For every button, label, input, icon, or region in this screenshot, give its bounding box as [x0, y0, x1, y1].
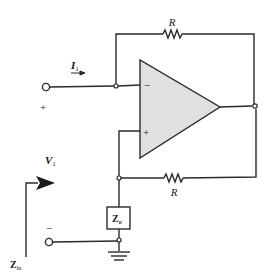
output-node — [253, 104, 257, 108]
zin-label: Zin — [10, 259, 21, 271]
resistor-bottom-label: R — [170, 186, 178, 198]
circuit-diagram: I1 − + R R Zo + − V1 — [0, 0, 270, 277]
opamp-triangle — [140, 60, 220, 158]
input-terminal-minus — [45, 238, 52, 245]
resistor-top-icon — [163, 30, 182, 38]
input-wire — [50, 85, 140, 87]
voltage-label: V1 — [45, 154, 56, 168]
input-minus-sign: − — [46, 222, 52, 234]
inverting-node — [114, 84, 118, 88]
input-terminal-plus — [42, 83, 49, 90]
resistor-top-label: R — [168, 16, 176, 28]
resistor-bottom-icon — [164, 174, 183, 182]
ground-node — [117, 238, 121, 242]
output-wire — [220, 106, 252, 107]
ground-icon — [108, 252, 130, 260]
current-label: I1 — [70, 59, 79, 73]
opamp-inverting-sign: − — [144, 79, 150, 91]
opamp-noninverting-sign: + — [143, 126, 149, 138]
input-plus-sign: + — [40, 101, 46, 113]
noninverting-node — [117, 176, 121, 180]
bottom-wire — [53, 229, 119, 251]
